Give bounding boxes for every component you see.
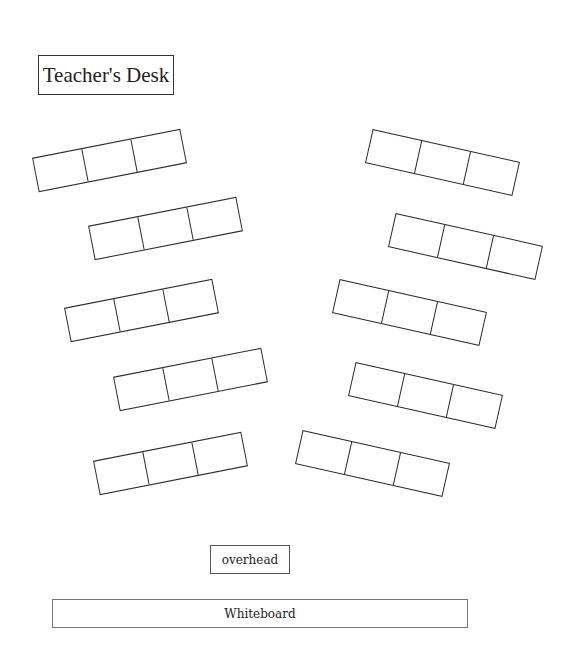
desk-group-l4 (113, 347, 268, 410)
seat (131, 129, 185, 171)
seat (143, 442, 198, 484)
seat (89, 217, 144, 259)
seat (296, 431, 352, 474)
seat (349, 363, 405, 406)
desk-group-r2 (388, 212, 543, 279)
seat (333, 280, 389, 323)
seat (114, 368, 169, 410)
desk-group-r5 (295, 429, 450, 496)
seat (163, 279, 217, 321)
seat (437, 225, 493, 268)
seat (138, 207, 193, 249)
seat (33, 149, 88, 191)
desk-group-l5 (93, 431, 248, 494)
desk-group-l3 (64, 278, 219, 341)
seat (344, 442, 400, 485)
desk-group-r1 (365, 128, 520, 195)
seat (94, 452, 149, 494)
desk-group-r3 (332, 278, 487, 345)
seat (463, 151, 518, 194)
overhead-projector: overhead (210, 545, 290, 574)
whiteboard: Whiteboard (52, 599, 468, 628)
seat (65, 299, 120, 341)
seat (82, 139, 137, 181)
seat (486, 235, 541, 278)
seat (212, 348, 266, 390)
seat (446, 384, 501, 427)
seat (187, 197, 241, 239)
desk-group-r4 (348, 361, 503, 428)
seat (163, 358, 218, 400)
seat (389, 214, 445, 257)
seat (381, 291, 437, 334)
desk-group-l1 (32, 128, 187, 191)
seat (393, 452, 448, 495)
seat (414, 141, 470, 184)
seat (366, 130, 422, 173)
seat (114, 289, 169, 331)
seat (397, 374, 453, 417)
desk-group-l2 (88, 196, 243, 259)
teacher-desk: Teacher's Desk (38, 55, 174, 95)
seat (192, 432, 246, 474)
seat (430, 301, 485, 344)
